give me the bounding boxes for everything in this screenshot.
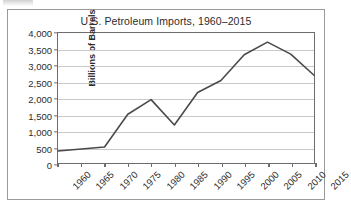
y-tick-label: 3,500 [28, 44, 52, 55]
x-tick-mark [315, 163, 316, 167]
x-tick-mark [151, 163, 152, 167]
y-tick-label: 3,000 [28, 61, 52, 72]
x-tick-label: 1995 [234, 169, 257, 192]
x-tick-mark [81, 163, 82, 167]
x-tick-label: 1975 [141, 169, 164, 192]
y-tick-label: 500 [36, 143, 52, 154]
x-tick-label: 2000 [258, 169, 281, 192]
x-tick-mark [222, 163, 223, 167]
y-tick-label: 0 [47, 160, 52, 171]
x-tick-label: 1970 [117, 169, 140, 192]
y-tick-label: 1,000 [28, 127, 52, 138]
y-tick-label: 2,500 [28, 77, 52, 88]
plot-area: Billions of Barrels 05001,0001,5002,0002… [57, 32, 315, 164]
x-tick-mark [104, 163, 105, 167]
x-tick-label: 2015 [328, 169, 351, 192]
x-tick-label: 1965 [94, 169, 117, 192]
y-tick-label: 2,000 [28, 94, 52, 105]
x-tick-mark [245, 163, 246, 167]
y-tick-label: 4,000 [28, 28, 52, 39]
x-tick-mark [292, 163, 293, 167]
x-tick-label: 2010 [305, 169, 328, 192]
x-tick-label: 2005 [281, 169, 304, 192]
x-tick-mark [128, 163, 129, 167]
series-line-us-petroleum-imports [58, 42, 314, 151]
x-tick-mark [175, 163, 176, 167]
x-tick-mark [268, 163, 269, 167]
series-line-chart [58, 33, 314, 163]
x-tick-mark [57, 163, 58, 167]
x-tick-label: 1985 [187, 169, 210, 192]
x-tick-label: 1980 [164, 169, 187, 192]
chart-figure: U.S. Petroleum Imports, 1960–2015 Billio… [7, 9, 325, 200]
x-tick-label: 1990 [211, 169, 234, 192]
x-tick-label: 1960 [70, 169, 93, 192]
x-tick-mark [198, 163, 199, 167]
chart-title: U.S. Petroleum Imports, 1960–2015 [8, 15, 324, 27]
scan-artifact [3, 0, 33, 6]
y-tick-label: 1,500 [28, 110, 52, 121]
